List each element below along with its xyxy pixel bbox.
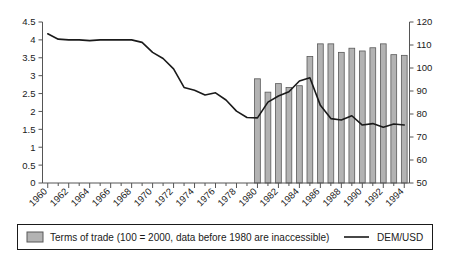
- bar-1982: [276, 84, 282, 183]
- bar-1994: [401, 55, 407, 183]
- left-axis-label-1.5: 1.5: [22, 124, 35, 135]
- bar-1986: [317, 44, 323, 183]
- chart-container: 00.511.522.533.544.5 5060708090100110120…: [0, 0, 449, 260]
- right-axis-label-60: 60: [417, 154, 428, 165]
- bar-1991: [370, 48, 376, 183]
- bar-1984: [297, 86, 303, 183]
- right-axis-label-50: 50: [417, 177, 428, 188]
- chart-legend: Terms of trade (100 = 2000, data before …: [17, 224, 433, 250]
- left-axis-label-2: 2: [30, 106, 35, 117]
- left-axis-label-3: 3: [30, 70, 35, 81]
- right-axis-label-120: 120: [417, 16, 433, 27]
- left-axis-label-4: 4: [30, 34, 35, 45]
- legend-label-dem-usd: DEM/USD: [377, 232, 423, 243]
- left-axis-label-3.5: 3.5: [22, 52, 35, 63]
- right-axis-label-100: 100: [417, 62, 433, 73]
- bar-1987: [328, 44, 334, 183]
- bar-1980: [255, 79, 261, 183]
- bar-1983: [286, 88, 292, 183]
- left-axis-label-4.5: 4.5: [22, 16, 35, 27]
- bar-1993: [391, 55, 397, 183]
- right-axis-label-70: 70: [417, 131, 428, 142]
- bar-1988: [338, 52, 344, 183]
- bar-1990: [359, 51, 365, 183]
- left-axis-label-0: 0: [30, 177, 35, 188]
- legend-label-terms-of-trade: Terms of trade (100 = 2000, data before …: [50, 232, 329, 243]
- bar-1992: [380, 44, 386, 183]
- left-axis-label-0.5: 0.5: [22, 160, 35, 171]
- right-axis-label-90: 90: [417, 85, 428, 96]
- right-axis-label-80: 80: [417, 108, 428, 119]
- legend-bar-swatch-icon: [27, 232, 43, 242]
- left-axis-label-1: 1: [30, 142, 35, 153]
- right-axis-label-110: 110: [417, 39, 432, 50]
- left-axis-label-2.5: 2.5: [22, 88, 35, 99]
- bar-1985: [307, 57, 313, 184]
- terms-of-trade-dem-usd-chart: 00.511.522.533.544.5 5060708090100110120…: [0, 0, 449, 260]
